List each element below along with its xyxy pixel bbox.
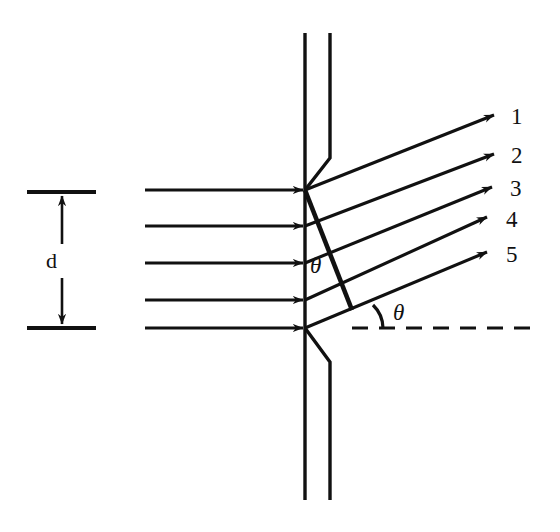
diffracted-ray-group <box>305 115 494 328</box>
ray-label-3: 3 <box>510 177 522 200</box>
slit-spacing-dimension-marker <box>27 192 96 328</box>
ray-label-2: 2 <box>511 144 523 167</box>
barrier-right-line-upper-notch <box>305 33 330 190</box>
theta-interior-label: θ <box>310 254 321 277</box>
diagram-canvas <box>0 0 560 532</box>
diffracted-ray-3 <box>305 187 492 263</box>
theta-exterior-arc <box>373 305 383 328</box>
barrier-right-line-lower-notch <box>305 328 330 500</box>
wavefront-path-difference-line <box>305 190 352 310</box>
ray-label-5: 5 <box>506 243 518 266</box>
diffracted-ray-1 <box>305 115 494 190</box>
diffracted-ray-2 <box>305 154 494 226</box>
slit-spacing-label: d <box>46 250 57 272</box>
ray-label-4: 4 <box>506 208 518 231</box>
theta-exterior-label: θ <box>393 301 404 324</box>
ray-label-1: 1 <box>511 105 523 128</box>
incident-ray-group <box>145 190 303 328</box>
diffraction-grating-figure: d θ θ 1 2 3 4 5 <box>0 0 560 532</box>
